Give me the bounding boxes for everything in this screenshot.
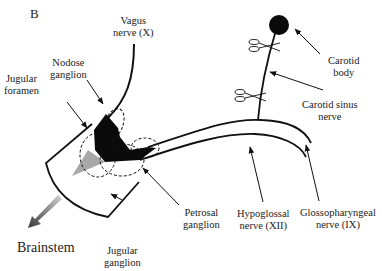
- label-hypoglossal-nerve: Hypoglossal nerve (XII): [237, 208, 290, 232]
- label-carotid-body: Carotid body: [328, 55, 360, 79]
- hypoglossal-nerve-lower: [140, 134, 306, 160]
- panel-label: B: [30, 8, 39, 20]
- nodose-ganglion-shape: [94, 114, 156, 162]
- label-carotid-sinus-nerve: Carotid sinus nerve: [302, 99, 358, 123]
- label-jugular-ganglion: Jugular ganglion: [104, 245, 141, 269]
- scissors-icon: [249, 40, 280, 52]
- label-nodose-ganglion: Nodose ganglion: [50, 57, 87, 81]
- brainstem-arrow: [28, 195, 62, 228]
- label-glossopharyngeal-nerve: Glossopharyngeal nerve (IX): [300, 207, 376, 231]
- label-jugular-foramen: Jugular foramen: [4, 73, 39, 97]
- label-vagus-nerve: Vagus nerve (X): [113, 15, 154, 39]
- glossopharyngeal-nerve-upper: [148, 120, 311, 147]
- jugular-foramen-outline: [46, 124, 139, 217]
- label-petrosal-ganglion: Petrosal ganglion: [183, 207, 220, 231]
- carotid-body: [269, 15, 289, 35]
- label-brainstem: Brainstem: [17, 240, 75, 256]
- vagus-nerve: [108, 44, 134, 118]
